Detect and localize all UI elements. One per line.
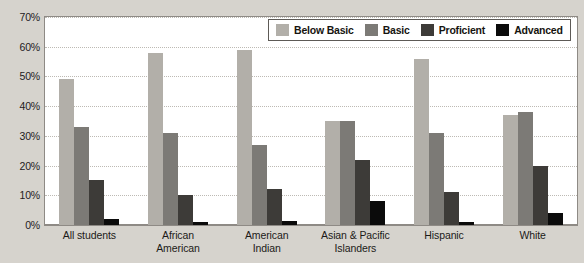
bars <box>311 17 400 225</box>
y-axis-tick-label: 0% <box>25 219 40 231</box>
bar-proficient <box>89 180 104 225</box>
bar-proficient <box>355 160 370 225</box>
legend-item: Advanced <box>496 24 563 36</box>
y-axis-tick-label: 20% <box>20 160 40 172</box>
bar-group <box>134 17 223 225</box>
legend-label: Basic <box>383 24 410 36</box>
bar-proficient <box>267 189 282 225</box>
bar-proficient <box>178 195 193 225</box>
bar-group <box>400 17 489 225</box>
legend-label: Below Basic <box>294 24 354 36</box>
y-axis-tick-label: 70% <box>20 11 40 23</box>
bar-basic <box>74 127 89 225</box>
bar-basic <box>252 145 267 225</box>
y-axis-tick-label: 50% <box>20 70 40 82</box>
x-axis-tick-label: Asian & PacificIslanders <box>311 229 400 255</box>
legend-item: Below Basic <box>276 24 354 36</box>
bar-group <box>222 17 311 225</box>
x-axis-tick-label: Hispanic <box>400 229 489 255</box>
bar-group <box>311 17 400 225</box>
bar-groups <box>45 17 577 225</box>
bars <box>222 17 311 225</box>
bar-basic <box>429 133 444 225</box>
bar-advanced <box>193 222 208 225</box>
y-axis-tick-label: 60% <box>20 41 40 53</box>
legend-item: Basic <box>365 24 410 36</box>
x-axis-tick-label: White <box>488 229 577 255</box>
y-axis-tick-label: 30% <box>20 130 40 142</box>
bar-below-basic <box>414 59 429 225</box>
legend-item: Proficient <box>421 24 485 36</box>
bar-basic <box>163 133 178 225</box>
bar-basic <box>518 112 533 225</box>
bar-advanced <box>282 221 297 225</box>
y-axis-labels: 70%60%50%40%30%20%10%0% <box>0 16 40 226</box>
grouped-bar-chart: 70%60%50%40%30%20%10%0% All studentsAfri… <box>0 0 584 263</box>
bars <box>488 17 577 225</box>
bar-advanced <box>548 213 563 225</box>
bar-proficient <box>533 166 548 225</box>
bar-below-basic <box>503 115 518 225</box>
bar-advanced <box>370 201 385 225</box>
legend-swatch-icon <box>421 24 434 36</box>
bar-below-basic <box>59 79 74 225</box>
bar-advanced <box>104 219 119 225</box>
bars <box>45 17 134 225</box>
bar-below-basic <box>325 121 340 225</box>
legend-label: Advanced <box>514 24 563 36</box>
x-axis-labels: All studentsAfricanAmericanAmericanIndia… <box>45 229 577 255</box>
legend-swatch-icon <box>365 24 378 36</box>
x-axis-tick-label: All students <box>45 229 134 255</box>
bars <box>134 17 223 225</box>
bar-group <box>488 17 577 225</box>
legend-swatch-icon <box>496 24 509 36</box>
x-axis-tick-label: AmericanIndian <box>222 229 311 255</box>
legend-label: Proficient <box>439 24 485 36</box>
bar-below-basic <box>237 50 252 225</box>
bar-basic <box>340 121 355 225</box>
bar-group <box>45 17 134 225</box>
bar-proficient <box>444 192 459 225</box>
y-axis-tick-label: 10% <box>20 189 40 201</box>
y-axis-tick-label: 40% <box>20 100 40 112</box>
x-axis-tick-label: AfricanAmerican <box>134 229 223 255</box>
legend-swatch-icon <box>276 24 289 36</box>
bar-advanced <box>459 222 474 225</box>
bars <box>400 17 489 225</box>
chart-legend: Below BasicBasicProficientAdvanced <box>268 19 571 41</box>
bar-below-basic <box>148 53 163 225</box>
